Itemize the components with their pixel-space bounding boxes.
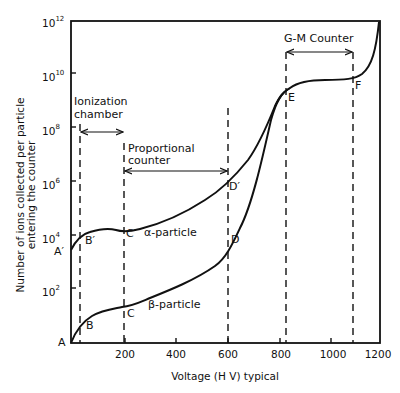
y-axis-title: Number of ions collected per particle en… [14, 97, 37, 292]
svg-text:counter: counter [128, 154, 171, 167]
svg-text:800: 800 [271, 348, 291, 360]
svg-text:102: 102 [42, 284, 60, 298]
chart-svg: 102 104 106 108 1010 1012 200 400 600 80… [0, 0, 400, 393]
svg-text:Ionization: Ionization [74, 95, 128, 108]
svg-text:β-particle: β-particle [148, 298, 201, 311]
chart-root: 102 104 106 108 1010 1012 200 400 600 80… [0, 0, 400, 393]
svg-text:C′: C′ [126, 227, 137, 240]
svg-text:entering the counter: entering the counter [25, 140, 37, 249]
svg-text:B′: B′ [85, 234, 96, 247]
svg-text:108: 108 [42, 123, 60, 137]
svg-text:E: E [288, 91, 295, 104]
svg-text:G-M Counter: G-M Counter [284, 32, 354, 45]
svg-text:1200: 1200 [365, 348, 392, 360]
svg-text:A: A [58, 336, 66, 349]
svg-text:400: 400 [166, 348, 186, 360]
svg-text:C: C [127, 307, 135, 320]
svg-text:600: 600 [218, 348, 238, 360]
svg-text:1012: 1012 [42, 15, 64, 29]
svg-text:A′: A′ [54, 245, 65, 258]
curve-labels: α-particle β-particle [144, 226, 201, 311]
svg-text:B: B [86, 319, 94, 332]
svg-text:1000: 1000 [320, 348, 347, 360]
svg-text:α-particle: α-particle [144, 226, 197, 239]
svg-text:chamber: chamber [74, 108, 123, 121]
svg-text:D: D [231, 233, 239, 246]
svg-text:D′: D′ [229, 180, 240, 193]
svg-text:F: F [355, 79, 361, 92]
alpha-particle-curve [71, 22, 379, 250]
svg-text:200: 200 [115, 348, 135, 360]
svg-text:104: 104 [42, 231, 60, 245]
svg-text:1010: 1010 [42, 69, 64, 83]
svg-text:106: 106 [42, 177, 60, 191]
plot-frame [71, 21, 380, 343]
x-tick-labels: 200 400 600 800 1000 1200 [115, 348, 391, 360]
x-axis-title: Voltage (H V) typical [171, 370, 279, 382]
